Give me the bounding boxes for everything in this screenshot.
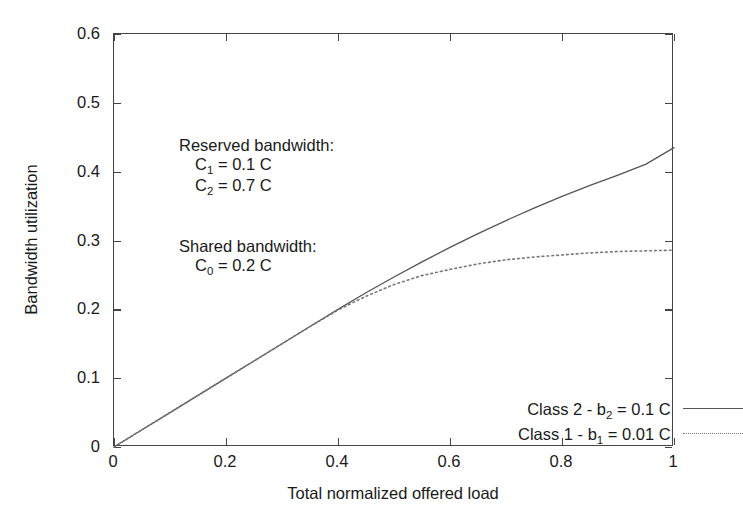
c2-subscript: 2 [207,185,213,197]
legend-entry: Class 1 - b1 = 0.01 C [518,422,743,447]
c2-value: = 0.7 C [213,176,271,194]
legend-line-sample-solid [683,408,743,411]
reserved-c2-line: C2 = 0.7 C [179,176,334,197]
y-tick-label: 0.4 [0,161,100,180]
legend-line-sample-dotted [683,433,743,436]
x-tick-label: 0 [108,452,117,471]
c1-symbol: C [195,155,207,173]
x-tick-top [674,34,675,41]
y-tick-label: 0.1 [0,368,100,387]
y-tick-label: 0.3 [0,230,100,249]
c1-value: = 0.1 C [213,155,271,173]
plot-area: Reserved bandwidth: C1 = 0.1 C C2 = 0.7 … [113,33,673,446]
reserved-c1-line: C1 = 0.1 C [179,155,334,176]
x-tick-label: 1 [668,452,677,471]
reserved-heading: Reserved bandwidth: [179,136,334,154]
x-axis-title: Total normalized offered load [113,484,673,503]
c0-value: = 0.2 C [213,256,271,274]
c1-subscript: 1 [207,164,213,176]
annotation-reserved-bandwidth: Reserved bandwidth: C1 = 0.1 C C2 = 0.7 … [179,136,334,197]
y-tick-right [665,447,672,448]
chart-legend: Class 2 - b2 = 0.1 CClass 1 - b1 = 0.01 … [518,397,743,447]
x-tick-label: 0.2 [214,452,237,471]
x-tick-label: 0.6 [438,452,461,471]
annotation-shared-bandwidth: Shared bandwidth: C0 = 0.2 C [179,237,317,277]
c0-symbol: C [195,256,207,274]
x-tick-label: 0.8 [550,452,573,471]
legend-label: Class 2 - b2 = 0.1 C [527,400,671,419]
y-tick-label: 0.6 [0,24,100,43]
y-tick-label: 0.2 [0,299,100,318]
c2-symbol: C [195,176,207,194]
c0-subscript: 0 [207,265,213,277]
x-tick-label: 0.4 [326,452,349,471]
y-tick-label: 0.5 [0,92,100,111]
y-tick-label: 0 [0,437,100,456]
shared-heading: Shared bandwidth: [179,237,317,255]
legend-label: Class 1 - b1 = 0.01 C [518,425,671,444]
shared-c0-line: C0 = 0.2 C [179,256,317,277]
legend-entry: Class 2 - b2 = 0.1 C [518,397,743,422]
